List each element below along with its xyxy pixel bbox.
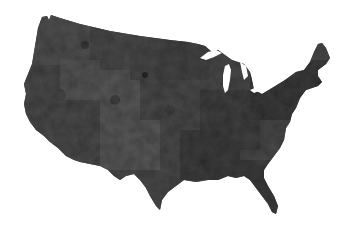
- map-canvas: [0, 0, 350, 230]
- us-choropleth-map: [0, 0, 350, 230]
- us-landmass: [0, 0, 350, 230]
